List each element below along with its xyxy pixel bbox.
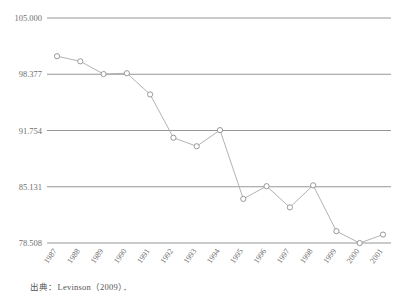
x-axis-labels-group: 1987198819891990199119921993199419951996… (42, 247, 385, 265)
x-axis-tick-label: 2000 (345, 247, 362, 265)
data-point-marker (101, 71, 106, 76)
data-point-marker (124, 71, 129, 76)
y-axis-labels-group: 105.00098.37791.75485.13178.508 (14, 13, 42, 248)
data-point-marker (171, 135, 176, 140)
data-point-marker (148, 92, 153, 97)
data-series-line (57, 56, 383, 243)
x-axis-tick-label: 1998 (298, 247, 315, 265)
x-axis-tick-label: 1995 (228, 247, 245, 265)
y-axis-tick-label: 85.131 (19, 182, 42, 192)
y-axis-tick-label: 98.377 (19, 69, 42, 79)
data-point-marker (311, 183, 316, 188)
data-point-marker (54, 54, 59, 59)
x-axis-tick-label: 1993 (182, 247, 199, 265)
data-markers-group (54, 54, 385, 246)
x-axis-tick-label: 1990 (112, 247, 129, 265)
y-axis-tick-label: 91.754 (19, 126, 43, 136)
data-point-marker (287, 205, 292, 210)
x-axis-tick-label: 2001 (368, 247, 385, 265)
source-note: 出典：Levinson（2009）． (30, 280, 132, 292)
x-axis-tick-label: 1988 (65, 247, 82, 265)
x-axis-tick-label: 1996 (252, 247, 269, 265)
data-point-marker (217, 128, 222, 133)
data-point-marker (380, 232, 385, 237)
x-axis-tick-label: 1994 (205, 247, 222, 265)
x-axis-tick-label: 1991 (135, 247, 152, 265)
data-point-marker (194, 144, 199, 149)
x-axis-tick-label: 1989 (89, 247, 106, 265)
x-axis-tick-label: 1999 (322, 247, 339, 265)
data-point-marker (334, 229, 339, 234)
data-point-marker (241, 196, 246, 201)
x-axis-tick-label: 1992 (159, 247, 176, 265)
data-line-group (57, 56, 383, 243)
y-axis-tick-label: 78.508 (19, 238, 42, 248)
line-chart-svg: 105.00098.37791.75485.13178.508 19871988… (0, 0, 403, 300)
chart-container: 105.00098.37791.75485.13178.508 19871988… (0, 0, 403, 300)
data-point-marker (78, 59, 83, 64)
data-point-marker (357, 240, 362, 245)
x-axis-tick-label: 1987 (42, 247, 59, 265)
data-point-marker (264, 184, 269, 189)
x-axis-tick-label: 1997 (275, 247, 292, 265)
y-axis-tick-label: 105.000 (14, 13, 42, 23)
